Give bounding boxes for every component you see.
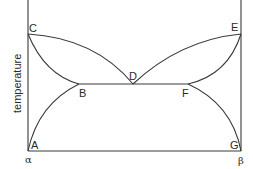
point-label-b: B bbox=[79, 87, 86, 99]
phase-diagram: C E D B F A G α β temperature bbox=[0, 0, 253, 169]
point-label-a: A bbox=[31, 139, 39, 151]
liquidus-curve-de bbox=[133, 34, 241, 84]
point-label-e: E bbox=[231, 21, 238, 33]
alpha-label: α bbox=[25, 154, 32, 165]
point-label-g: G bbox=[230, 139, 239, 151]
point-label-c: C bbox=[29, 22, 37, 34]
solidus-curve-ef bbox=[188, 34, 241, 84]
liquidus-curve-cd bbox=[28, 34, 133, 84]
point-label-d: D bbox=[129, 70, 137, 82]
beta-label: β bbox=[238, 155, 244, 166]
y-axis-label: temperature bbox=[11, 54, 23, 113]
point-label-f: F bbox=[182, 87, 189, 99]
